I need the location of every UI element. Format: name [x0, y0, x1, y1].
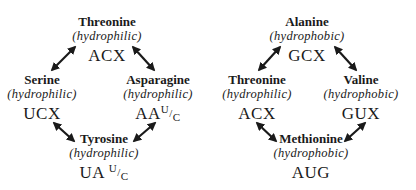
- node-threonine-right: Threonine (hydrophilic) ACX: [222, 73, 291, 122]
- amino-acid-property: (hydrophobic): [274, 147, 349, 163]
- codon: GCX: [270, 47, 345, 64]
- codon: AUG: [274, 164, 349, 181]
- node-threonine-left: Threonine (hydrophilic) ACX: [72, 15, 141, 64]
- amino-acid-name: Threonine: [222, 73, 291, 87]
- codon: GUX: [324, 105, 399, 122]
- wobble-bottom: C: [173, 111, 181, 123]
- codon: UA U/C: [69, 164, 138, 181]
- node-valine: Valine (hydrophobic) GUX: [324, 73, 399, 122]
- wobble-top: U: [161, 103, 169, 115]
- amino-acid-property: (hydrophilic): [72, 30, 141, 46]
- codon-base: UA: [79, 163, 104, 182]
- amino-acid-property: (hydrophilic): [222, 88, 291, 104]
- amino-acid-name: Serine: [7, 73, 76, 87]
- node-tyrosine: Tyrosine (hydrophilic) UA U/C: [69, 132, 138, 181]
- amino-acid-name: Valine: [324, 73, 399, 87]
- node-asparagine: Asparagine (hydrophilic) AAU/C: [123, 73, 192, 122]
- amino-acid-property: (hydrophilic): [123, 88, 192, 104]
- amino-acid-name: Asparagine: [123, 73, 192, 87]
- codon: UCX: [7, 105, 76, 122]
- amino-acid-property: (hydrophilic): [7, 88, 76, 104]
- amino-acid-name: Alanine: [270, 15, 345, 29]
- amino-acid-name: Threonine: [72, 15, 141, 29]
- node-serine: Serine (hydrophilic) UCX: [7, 73, 76, 122]
- codon: AAU/C: [123, 105, 192, 122]
- node-methionine: Methionine (hydrophobic) AUG: [274, 132, 349, 181]
- codon-base: AA: [135, 104, 161, 123]
- wobble-top: U: [109, 162, 117, 174]
- amino-acid-name: Methionine: [274, 132, 349, 146]
- amino-acid-property: (hydrophilic): [69, 147, 138, 163]
- amino-acid-property: (hydrophobic): [270, 30, 345, 46]
- codon: ACX: [72, 47, 141, 64]
- amino-acid-property: (hydrophobic): [324, 88, 399, 104]
- codon: ACX: [222, 105, 291, 122]
- amino-acid-name: Tyrosine: [69, 132, 138, 146]
- node-alanine: Alanine (hydrophobic) GCX: [270, 15, 345, 64]
- wobble-bottom: C: [121, 170, 129, 182]
